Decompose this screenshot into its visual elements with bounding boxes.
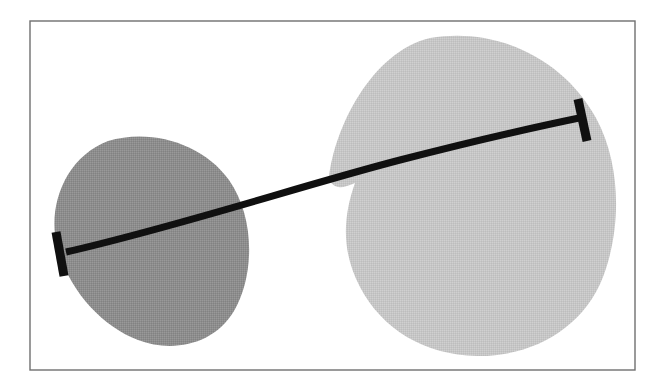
figure-canvas <box>0 0 665 390</box>
diagram-svg <box>0 0 665 390</box>
